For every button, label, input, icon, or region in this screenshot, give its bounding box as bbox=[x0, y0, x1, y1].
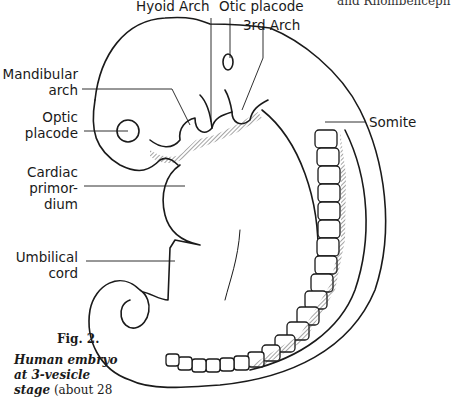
label-cardiac-line3: dium bbox=[27, 196, 78, 212]
label-somite: Somite bbox=[369, 114, 416, 130]
label-mandibular-arch: Mandibular arch bbox=[3, 66, 79, 98]
label-third-arch: 3rd Arch bbox=[243, 17, 300, 33]
label-mandibular-line2: arch bbox=[3, 82, 79, 98]
label-cardiac-line2: primor- bbox=[27, 180, 78, 196]
label-optic-placode: Optic placode bbox=[25, 109, 78, 141]
label-hyoid-arch: Hyoid Arch bbox=[136, 0, 209, 14]
somites bbox=[166, 130, 340, 372]
label-otic-placode: Otic placode bbox=[219, 0, 304, 14]
caption-emphasis-2: at 3-vesicle bbox=[14, 368, 90, 382]
caption-emphasis-3: stage bbox=[14, 383, 50, 397]
label-optic-line2: placode bbox=[25, 125, 78, 141]
label-optic-line1: Optic bbox=[25, 109, 78, 125]
caption-emphasis-1: Human embryo bbox=[14, 353, 117, 367]
caption-rest: (about 28 bbox=[54, 383, 112, 397]
label-mandibular-line1: Mandibular bbox=[3, 66, 79, 82]
label-cardiac-line1: Cardiac bbox=[27, 164, 78, 180]
label-cardiac-primordium: Cardiac primor- dium bbox=[27, 164, 78, 212]
label-umbilical-line1: Umbilical bbox=[16, 249, 78, 265]
otic-placode-shape bbox=[223, 54, 233, 70]
label-umbilical-line2: cord bbox=[16, 265, 78, 281]
label-umbilical-cord: Umbilical cord bbox=[16, 249, 78, 281]
figure-number: Fig. 2. bbox=[57, 332, 99, 346]
figure-caption: Human embryo at 3-vesicle stage (about 2… bbox=[14, 353, 124, 398]
overflow-text: and Rhombenceph bbox=[337, 0, 451, 8]
